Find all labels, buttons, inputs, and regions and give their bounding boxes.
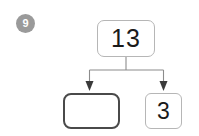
number-bond-whole-box: 13	[97, 20, 155, 57]
arrowhead-left-icon	[86, 81, 94, 91]
number-bond-part-value-box: 3	[145, 93, 182, 129]
number-bond-part-blank-box[interactable]	[63, 93, 120, 129]
arrowhead-right-icon	[160, 81, 168, 91]
